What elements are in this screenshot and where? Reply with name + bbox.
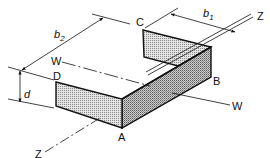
b1-label: b1 bbox=[203, 7, 214, 22]
d-label: d bbox=[24, 88, 31, 100]
point-a-label: A bbox=[118, 131, 126, 143]
point-d-label: D bbox=[53, 70, 61, 82]
b2-label: b2 bbox=[54, 28, 65, 43]
point-b-label: B bbox=[213, 75, 220, 87]
b2-extension-top bbox=[92, 14, 130, 24]
z-axis-label-top: Z bbox=[257, 10, 264, 22]
z-axis-line-lower bbox=[45, 118, 100, 152]
w-axis-label-left: W bbox=[51, 55, 62, 67]
d-extension-bottom bbox=[8, 99, 54, 108]
w-axis-line-right bbox=[172, 93, 230, 105]
z-axis-label-bottom: Z bbox=[35, 148, 42, 158]
b2-extension-bottom bbox=[8, 67, 54, 80]
flange-d-face bbox=[56, 82, 122, 128]
w-axis-line-left bbox=[62, 62, 150, 86]
z-section-diagram: b2 b1 d C D A B W W Z Z bbox=[0, 0, 270, 158]
w-axis-label-right: W bbox=[232, 100, 243, 112]
b1-extension-left bbox=[145, 8, 178, 28]
point-c-label: C bbox=[136, 16, 144, 28]
